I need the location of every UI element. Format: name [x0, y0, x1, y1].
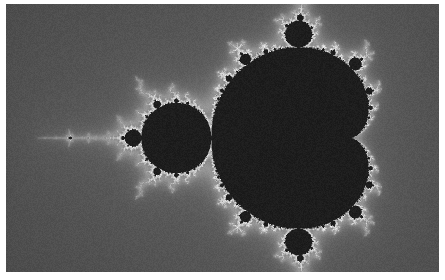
page-margin-right [439, 0, 445, 280]
mandelbrot-figure [0, 0, 445, 280]
mandelbrot-canvas [6, 4, 439, 272]
fractal-viewport [6, 4, 439, 272]
page-margin-bottom [0, 272, 445, 280]
